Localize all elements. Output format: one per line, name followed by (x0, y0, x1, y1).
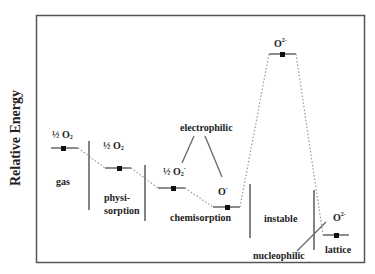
species-physisorption: ½ O2 (103, 141, 124, 151)
y-axis-label: Relative Energy (8, 78, 24, 198)
species-gas: ½ O2 (52, 130, 73, 140)
region-physisorption-line1: physi- (104, 193, 130, 203)
species-lattice: O2- (333, 211, 346, 223)
region-gas: gas (56, 177, 70, 187)
plot-frame (37, 16, 365, 263)
annotation-pointers (182, 136, 326, 251)
region-lattice: lattice (325, 245, 351, 255)
species-superoxide: ½ O2- (163, 165, 186, 177)
annotation-nucleophilic: nucleophilic (253, 251, 305, 261)
region-chemisorption: chemisorption (170, 213, 231, 223)
species-oxide: O- (218, 185, 228, 197)
annotation-electrophilic: electrophilic (180, 123, 233, 133)
species-instable: O2- (274, 37, 287, 49)
region-instable: instable (264, 214, 297, 224)
region-physisorption-line2: sorption (104, 206, 140, 216)
energy-levels (51, 54, 349, 235)
